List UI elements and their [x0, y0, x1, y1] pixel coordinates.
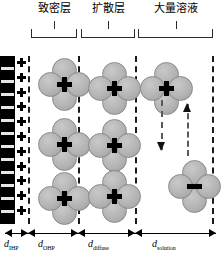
axis-arrowhead-left-icon	[135, 229, 142, 237]
cation-core-icon	[159, 81, 174, 96]
arrow-head-icon	[157, 142, 165, 151]
distance-label-diffuse: ddiffuse	[88, 238, 109, 254]
axis-arrowhead-right-icon	[21, 229, 28, 237]
zone-label-diffusion-layer: 扩散层	[81, 2, 135, 15]
axis-arrowhead-left-icon	[78, 229, 85, 237]
boundary-line-inner-helmholtz-plane	[28, 56, 30, 224]
axis-arrowhead-right-icon	[128, 229, 135, 237]
bracket-stem	[108, 21, 109, 29]
distance-label-ihp: dIHP	[4, 238, 18, 254]
zone-label-compact-layer: 致密层	[31, 2, 77, 15]
axis-segment-solution	[135, 233, 216, 234]
distance-subscript: diffuse	[93, 245, 109, 251]
distance-subscript: solution	[157, 245, 176, 251]
solvated-cation-diffuse	[88, 170, 142, 224]
axis-arrowhead-right-icon	[71, 229, 78, 237]
solvated-cation-diffuse	[88, 119, 142, 173]
cation-core-icon	[107, 138, 122, 153]
electrode-positive-charge	[17, 58, 26, 67]
anion-migration-arrow	[183, 104, 192, 156]
solvated-cation-compact	[38, 172, 92, 226]
solvated-cation-compact	[38, 58, 92, 112]
bracket-stem	[176, 21, 177, 29]
distance-subscript: IHP	[9, 245, 18, 251]
electrode-positive-charge	[17, 132, 26, 141]
electrode-positive-charge	[17, 162, 26, 171]
distance-axis	[0, 229, 222, 239]
bracket-compact-layer	[31, 29, 77, 38]
anion-core-icon	[187, 179, 202, 194]
electrode-positive-charge	[17, 117, 26, 126]
axis-arrowhead-left-icon	[5, 229, 12, 237]
distance-label-solution: dsolution	[152, 238, 176, 254]
electrode-positive-charge	[17, 88, 26, 97]
cation-core-icon	[57, 191, 72, 206]
electrode-positive-charge	[17, 147, 26, 156]
cation-core-icon	[107, 189, 122, 204]
axis-arrowhead-left-icon	[28, 229, 35, 237]
distance-label-ohp: dOHP	[38, 238, 55, 254]
arrow-head-icon	[183, 103, 191, 112]
distance-subscript: OHP	[43, 245, 55, 251]
cation-migration-arrow	[157, 100, 166, 150]
solvated-cation-compact	[38, 118, 92, 172]
electrode-surface-charges	[16, 56, 28, 224]
zone-label-bulk-solution: 大量溶液	[138, 2, 213, 15]
axis-segment-diffuse	[78, 233, 135, 234]
bracket-diffusion-layer	[81, 29, 135, 38]
electrode-positive-charge	[17, 206, 26, 215]
electrode-positive-charge	[17, 73, 26, 82]
cation-core-icon	[57, 137, 72, 152]
electrode-positive-charge	[17, 176, 26, 185]
axis-arrowhead-end-icon	[209, 229, 216, 237]
cation-core-icon	[107, 81, 122, 96]
bracket-stem	[54, 21, 55, 29]
charged-electrode	[0, 56, 15, 224]
electrode-positive-charge	[17, 191, 26, 200]
solvated-anion-bulk	[168, 160, 222, 214]
cation-core-icon	[57, 77, 72, 92]
bracket-bulk-solution	[138, 29, 213, 38]
electrode-positive-charge	[17, 102, 26, 111]
solvated-cation-diffuse	[88, 62, 142, 116]
